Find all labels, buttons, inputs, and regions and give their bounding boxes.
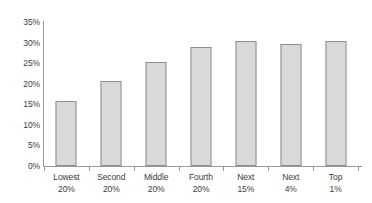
bars-layer — [44, 22, 358, 166]
x-axis-category-label: Fourth20% — [179, 172, 224, 195]
bar[interactable] — [101, 81, 122, 166]
x-axis-category-label: Middle20% — [134, 172, 179, 195]
category-label-line-1: Lowest — [53, 172, 79, 182]
x-axis-category-label: Next4% — [268, 172, 313, 195]
y-axis-tick-labels: 0%5%10%15%20%25%30%35% — [2, 0, 40, 203]
x-axis-line — [43, 166, 362, 167]
bar[interactable] — [325, 41, 346, 166]
plot-area — [44, 22, 358, 166]
category-label-line-2: 20% — [44, 184, 89, 196]
bar-chart-figure: 0%5%10%15%20%25%30%35% Lowest20%Second20… — [0, 0, 372, 203]
y-axis-tick-label: 5% — [6, 141, 40, 150]
x-axis-tick-mark — [313, 167, 314, 171]
category-label-line-1: Top — [329, 172, 342, 182]
bar-slot — [223, 22, 268, 166]
bar-slot — [44, 22, 89, 166]
category-label-line-1: Middle — [144, 172, 168, 182]
y-axis-tick-label: 35% — [6, 18, 40, 27]
y-axis-tick-label: 20% — [6, 80, 40, 89]
x-axis-tick-mark — [268, 167, 269, 171]
category-label-line-2: 20% — [179, 184, 224, 196]
x-axis-category-label: Next15% — [223, 172, 268, 195]
x-axis-tick-mark — [89, 167, 90, 171]
bar[interactable] — [235, 41, 256, 166]
category-label-line-2: 15% — [223, 184, 268, 196]
y-axis-tick-label: 25% — [6, 59, 40, 68]
y-axis-tick-label: 15% — [6, 100, 40, 109]
category-label-line-1: Next — [282, 172, 299, 182]
bar-slot — [134, 22, 179, 166]
category-label-line-1: Next — [237, 172, 254, 182]
bar-slot — [313, 22, 358, 166]
x-axis-category-labels: Lowest20%Second20%Middle20%Fourth20%Next… — [44, 172, 358, 202]
x-axis-category-label: Lowest20% — [44, 172, 89, 195]
category-label-line-2: 20% — [134, 184, 179, 196]
bar[interactable] — [190, 47, 211, 166]
x-axis-tick-mark — [44, 167, 45, 171]
y-axis-tick-label: 0% — [6, 162, 40, 171]
x-axis-tick-mark — [358, 167, 359, 171]
y-axis-tick-label: 10% — [6, 121, 40, 130]
x-axis-tick-mark — [134, 167, 135, 171]
category-label-line-2: 20% — [89, 184, 134, 196]
bar-slot — [89, 22, 134, 166]
bar[interactable] — [56, 101, 77, 166]
x-axis-tick-mark — [179, 167, 180, 171]
bar-slot — [179, 22, 224, 166]
x-axis-tick-mark — [223, 167, 224, 171]
y-axis-tick-label: 30% — [6, 39, 40, 48]
x-axis-category-label: Second20% — [89, 172, 134, 195]
category-label-line-1: Second — [97, 172, 125, 182]
bar-slot — [268, 22, 313, 166]
category-label-line-1: Fourth — [189, 172, 213, 182]
category-label-line-2: 4% — [268, 184, 313, 196]
x-axis-category-label: Top1% — [313, 172, 358, 195]
category-label-line-2: 1% — [313, 184, 358, 196]
bar[interactable] — [280, 44, 301, 166]
bar[interactable] — [146, 62, 167, 167]
